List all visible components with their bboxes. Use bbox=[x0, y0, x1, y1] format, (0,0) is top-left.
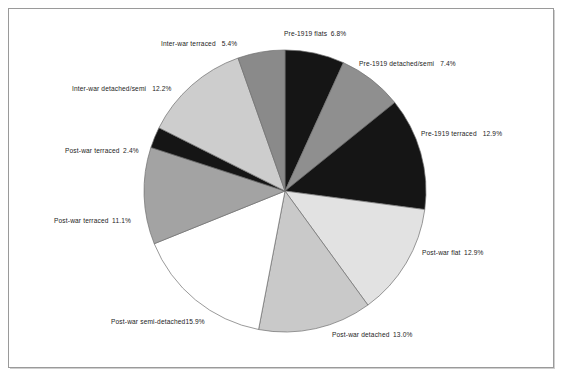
slice-label-value: 5.4% bbox=[222, 40, 238, 47]
slice-label-name: Pre-1919 detached/semi bbox=[359, 60, 434, 67]
pie-slice-group bbox=[144, 50, 426, 332]
slice-label-name: Inter-war detached/semi bbox=[72, 85, 146, 92]
slice-label-name: Inter-war terraced bbox=[161, 40, 216, 47]
slice-label-name: Post-war semi-detached bbox=[111, 318, 185, 325]
pie-chart-svg bbox=[0, 0, 564, 378]
slice-label-post-war-terraced-2: Post-war terraced2.4% bbox=[65, 148, 139, 155]
slice-label-name: Post-war terraced bbox=[54, 217, 109, 224]
slice-label-name: Post-war detached bbox=[332, 331, 390, 338]
slice-label-value: 12.2% bbox=[152, 85, 171, 92]
slice-label-inter-war-terraced: Inter-war terraced5.4% bbox=[161, 41, 237, 48]
slice-label-post-war-semi-detached: Post-war semi-detached15.9% bbox=[111, 319, 205, 326]
page-canvas: Pre-1919 flats6.8% Pre-1919 detached/sem… bbox=[0, 0, 564, 378]
slice-label-value: 15.9% bbox=[185, 318, 204, 325]
slice-label-value: 13.0% bbox=[393, 331, 412, 338]
pie-chart: Pre-1919 flats6.8% Pre-1919 detached/sem… bbox=[0, 0, 564, 378]
slice-label-value: 12.9% bbox=[464, 249, 483, 256]
slice-label-value: 6.8% bbox=[331, 30, 347, 37]
slice-label-name: Pre-1919 flats bbox=[284, 30, 327, 37]
slice-label-pre-1919-detached-semi: Pre-1919 detached/semi7.4% bbox=[359, 61, 456, 68]
slice-label-pre-1919-terraced: Pre-1919 terraced12.9% bbox=[421, 131, 502, 138]
slice-label-pre-1919-flats: Pre-1919 flats6.8% bbox=[284, 31, 346, 38]
slice-label-value: 2.4% bbox=[123, 147, 139, 154]
slice-label-post-war-detached: Post-war detached13.0% bbox=[332, 332, 412, 339]
slice-label-value: 12.9% bbox=[483, 130, 502, 137]
slice-label-value: 11.1% bbox=[112, 217, 131, 224]
slice-label-post-war-flat: Post-war flat12.9% bbox=[422, 250, 484, 257]
slice-label-inter-war-detached-semi: Inter-war detached/semi12.2% bbox=[72, 86, 172, 93]
slice-label-value: 7.4% bbox=[440, 60, 456, 67]
slice-label-post-war-terraced-11: Post-war terraced11.1% bbox=[54, 218, 131, 225]
slice-label-name: Post-war terraced bbox=[65, 147, 120, 154]
slice-label-name: Post-war flat bbox=[422, 249, 461, 256]
slice-label-name: Pre-1919 terraced bbox=[421, 130, 477, 137]
